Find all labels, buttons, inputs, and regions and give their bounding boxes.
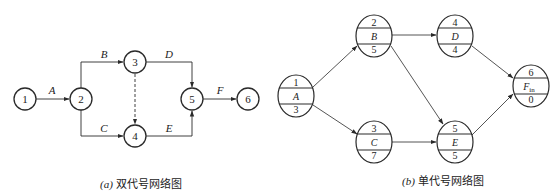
node-fin-bottom: 0 xyxy=(529,94,534,105)
edge-label-d: D xyxy=(164,48,173,60)
node-fin-name-sub: in xyxy=(529,86,535,94)
node-e-name: E xyxy=(451,137,458,148)
caption-a-letter: (a) xyxy=(100,178,113,190)
node-c-name: C xyxy=(371,137,378,148)
edge-a-b xyxy=(313,46,357,87)
diagram-b-aon xyxy=(313,35,513,142)
edge-b-e xyxy=(391,46,443,124)
node-d-top: 4 xyxy=(453,17,458,28)
network-diagrams: 1 2 3 4 5 6 A B C D E F xyxy=(0,0,555,195)
node-b-bottom: 5 xyxy=(372,44,377,55)
node-b-name: B xyxy=(371,31,377,42)
node-6-label: 6 xyxy=(245,93,251,105)
node-b-top: 2 xyxy=(372,17,377,28)
node-d-name: D xyxy=(450,31,459,42)
node-e-bottom: 5 xyxy=(453,150,458,161)
node-3-label: 3 xyxy=(132,56,138,68)
caption-a-text: 双代号网络图 xyxy=(113,178,182,190)
edge-d-fin xyxy=(472,46,513,78)
edge-label-b: B xyxy=(101,48,108,60)
edge-2-3 xyxy=(81,62,123,88)
edge-3-5 xyxy=(146,62,192,87)
edge-label-e: E xyxy=(165,122,173,134)
node-a-name: A xyxy=(292,91,300,102)
edge-e-fin xyxy=(472,94,513,135)
node-c-top: 3 xyxy=(372,123,377,134)
edge-a-c xyxy=(313,105,357,134)
caption-b-text: 单代号网络图 xyxy=(415,175,484,187)
caption-b: (b) 单代号网络图 xyxy=(402,172,484,188)
node-d-bottom: 4 xyxy=(453,44,458,55)
node-5-label: 5 xyxy=(189,93,195,105)
node-e-top: 5 xyxy=(453,123,458,134)
node-2-label: 2 xyxy=(78,93,84,105)
node-a-bottom: 3 xyxy=(294,104,299,115)
node-1-label: 1 xyxy=(22,93,28,105)
caption-b-letter: (b) xyxy=(402,175,415,187)
edge-label-c: C xyxy=(100,122,108,134)
node-fin-top: 6 xyxy=(529,67,534,78)
edge-label-f: F xyxy=(216,84,224,96)
node-4-label: 4 xyxy=(132,130,138,142)
caption-a: (a) 双代号网络图 xyxy=(100,175,182,191)
node-a-top: 1 xyxy=(294,77,299,88)
node-c-bottom: 7 xyxy=(372,150,377,161)
edge-label-a: A xyxy=(48,84,56,96)
